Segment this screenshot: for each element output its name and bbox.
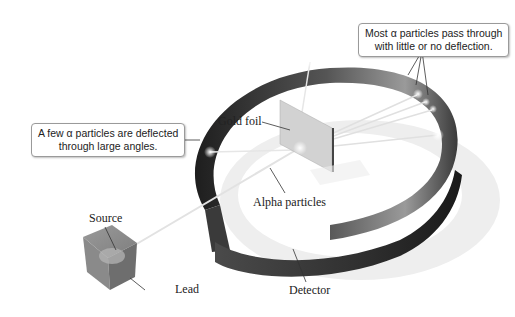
callout-most-pass-line1: Most α particles pass through bbox=[365, 27, 502, 40]
callout-most-pass-line2: with little or no deflection. bbox=[365, 40, 502, 53]
callout-few-deflected: A few α particles are deflected through … bbox=[31, 123, 185, 157]
diagram-stage: Most α particles pass through with littl… bbox=[0, 0, 515, 317]
label-lead: Lead bbox=[175, 282, 199, 297]
callout-most-pass: Most α particles pass through with littl… bbox=[358, 23, 509, 57]
label-gold-foil: Gold foil bbox=[218, 114, 262, 129]
label-alpha-particles: Alpha particles bbox=[253, 195, 326, 210]
lead-block bbox=[83, 225, 137, 290]
callout-few-deflected-line1: A few α particles are deflected bbox=[38, 127, 178, 140]
callout-few-deflected-line2: through large angles. bbox=[38, 140, 178, 153]
label-detector: Detector bbox=[289, 283, 330, 298]
label-source: Source bbox=[89, 211, 122, 226]
